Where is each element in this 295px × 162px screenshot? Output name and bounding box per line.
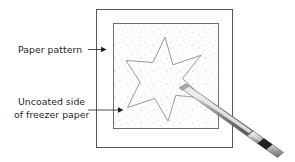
diagram-canvas: Paper pattern Uncoated side of freezer p… xyxy=(0,0,295,162)
label-paper-pattern: Paper pattern xyxy=(18,44,82,55)
label-uncoated-side-line2: of freezer paper xyxy=(14,109,90,120)
label-uncoated-side-line1: Uncoated side xyxy=(18,96,85,107)
diagram-svg: Paper pattern Uncoated side of freezer p… xyxy=(0,0,295,162)
